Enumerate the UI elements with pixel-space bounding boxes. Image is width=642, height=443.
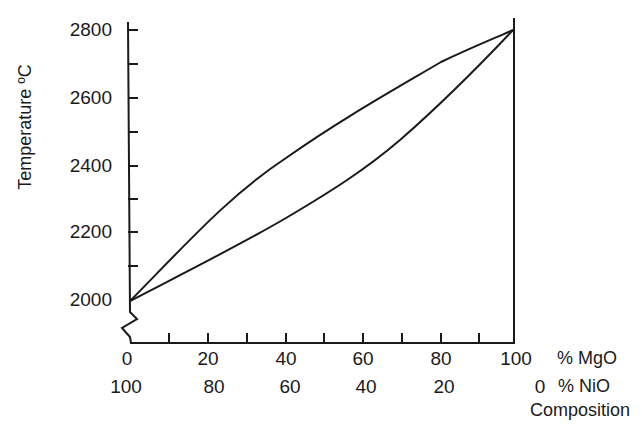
x-tick-label-nio: 80	[184, 376, 244, 398]
x-tick-label-mgo: 40	[256, 348, 316, 370]
solidus-curve	[130, 30, 513, 301]
x-tick-label-mgo: 100	[486, 348, 546, 370]
x-tick-label-nio: 60	[260, 376, 320, 398]
x-tick-label-mgo: 0	[97, 348, 157, 370]
y-axis-title: Temperature ºC	[15, 64, 36, 190]
x-axis-title: Composition	[530, 400, 630, 421]
nio-axis-label: % NiO	[558, 376, 610, 397]
x-tick-label-mgo: 20	[178, 348, 238, 370]
x-tick-label-nio: 20	[414, 376, 474, 398]
y-tick-label: 2200	[42, 221, 112, 243]
x-ticks	[169, 333, 479, 343]
y-tick-label: 2800	[42, 19, 112, 41]
x-tick-label-mgo: 60	[333, 348, 393, 370]
y-tick-label: 2600	[42, 87, 112, 109]
y-axis	[122, 18, 514, 343]
x-tick-label-nio: 100	[96, 376, 156, 398]
x-tick-label-nio: 40	[336, 376, 396, 398]
mgo-axis-label: % MgO	[557, 348, 617, 369]
liquidus-curve	[130, 30, 513, 301]
x-tick-label-mgo: 80	[411, 348, 471, 370]
y-tick-label: 2400	[42, 155, 112, 177]
y-tick-label: 2000	[42, 289, 112, 311]
